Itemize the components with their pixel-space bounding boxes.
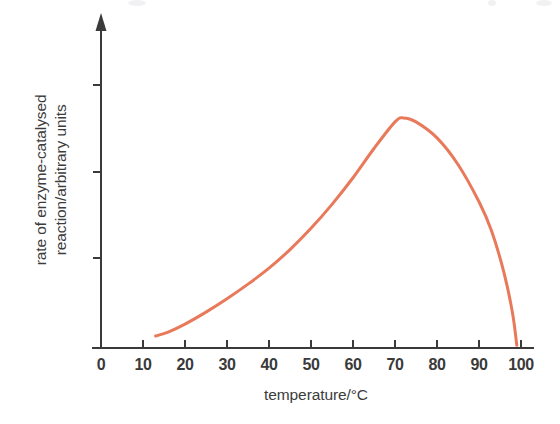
- x-axis-title: temperature/°C: [101, 386, 531, 404]
- x-tick-label-60: 60: [333, 356, 373, 374]
- x-tick-label-10: 10: [123, 356, 163, 374]
- x-tick-label-40: 40: [249, 356, 289, 374]
- x-tick-label-30: 30: [207, 356, 247, 374]
- y-axis-ticks: [93, 85, 101, 258]
- x-axis-ticks: [101, 340, 521, 348]
- arrow-up-icon: [96, 13, 107, 31]
- y-axis-line: [96, 13, 107, 348]
- x-tick-label-50: 50: [291, 356, 331, 374]
- x-tick-label-80: 80: [417, 356, 457, 374]
- x-tick-label-70: 70: [375, 356, 415, 374]
- x-tick-label-0: 0: [81, 356, 121, 374]
- x-tick-label-90: 90: [459, 356, 499, 374]
- x-tick-label-100: 100: [501, 356, 541, 374]
- rate-curve-line: [156, 118, 517, 346]
- x-tick-label-20: 20: [165, 356, 205, 374]
